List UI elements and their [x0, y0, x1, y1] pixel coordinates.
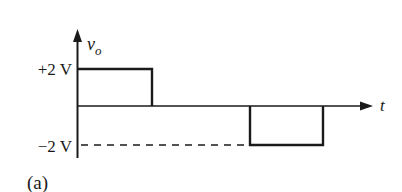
waveform-diagram: vo t +2 V −2 V (a) — [0, 0, 402, 192]
negative-pulse — [250, 106, 323, 145]
positive-pulse — [77, 69, 152, 106]
y-axis-arrow-icon — [73, 29, 82, 42]
y-axis-label: vo — [87, 34, 102, 58]
x-axis-arrow-icon — [360, 102, 373, 111]
negative-level-label: −2 V — [38, 137, 73, 156]
x-axis — [77, 102, 373, 111]
y-axis — [73, 29, 82, 158]
figure-caption: (a) — [27, 172, 48, 192]
x-axis-label: t — [380, 96, 386, 115]
positive-level-label: +2 V — [38, 60, 73, 79]
